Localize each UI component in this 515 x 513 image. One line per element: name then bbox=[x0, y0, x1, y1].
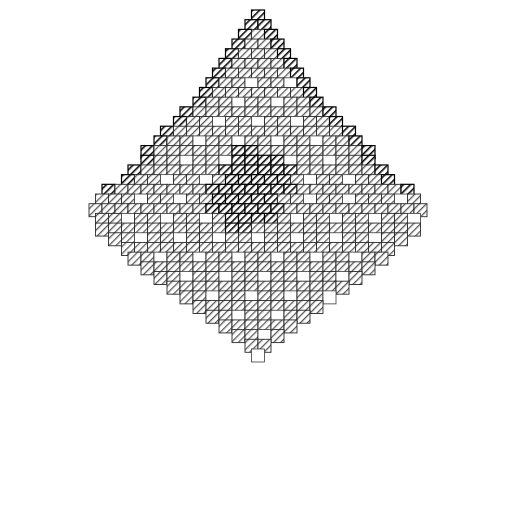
lattice-cell bbox=[395, 233, 408, 246]
lattice-cell bbox=[349, 272, 362, 285]
lattice-cell bbox=[128, 252, 141, 265]
figure-canvas bbox=[0, 0, 515, 513]
lattice-cell bbox=[284, 320, 297, 333]
lattice-cell bbox=[252, 349, 265, 362]
lattice-cell bbox=[206, 310, 219, 323]
lattice-cell bbox=[167, 281, 180, 294]
lattice-cell bbox=[297, 310, 310, 323]
lattice-cell bbox=[310, 301, 323, 314]
lattice-cell bbox=[141, 262, 154, 275]
lattice-cell bbox=[109, 233, 122, 246]
lattice-cell bbox=[219, 320, 232, 333]
lattice-cell bbox=[154, 272, 167, 285]
lattice-cell bbox=[193, 301, 206, 314]
lattice-cell bbox=[96, 223, 109, 236]
lattice-cell bbox=[323, 291, 336, 304]
lattice-cell bbox=[271, 330, 284, 343]
lattice-cell bbox=[180, 291, 193, 304]
lattice-cell bbox=[375, 252, 388, 265]
lattice-cell bbox=[362, 262, 375, 275]
lattice-cell bbox=[232, 330, 245, 343]
lattice-cell bbox=[408, 223, 421, 236]
diamond-hatch-lattice bbox=[0, 0, 515, 513]
lattice-cell bbox=[336, 281, 349, 294]
